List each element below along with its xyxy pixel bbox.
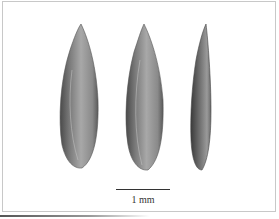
scale-bar-label: 1 mm <box>116 194 170 205</box>
bottom-rule <box>0 215 150 217</box>
seed-left <box>60 24 98 168</box>
seed-specimens <box>0 0 279 219</box>
seed-right <box>191 24 211 170</box>
seed-middle <box>126 24 163 170</box>
scale-bar <box>116 189 170 190</box>
